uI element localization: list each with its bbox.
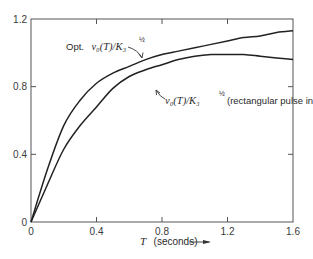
x-tick-label: 0 [28, 226, 34, 237]
curve-optimal [31, 31, 293, 222]
annotation-optimal: Opt. v₀(T)/K₃ ½ [66, 36, 145, 58]
x-tick-label: 1.6 [286, 226, 300, 237]
annotation-optimal-text: Opt. v₀(T)/K₃ [66, 36, 126, 53]
x-tick-label: 0.4 [90, 226, 104, 237]
annotation-rectangular-text: v₀(T)/K₃ [165, 95, 200, 107]
annotation-rectangular-suffix: (rectangular pulse input) [227, 95, 313, 106]
x-tick-label: 1.2 [221, 226, 235, 237]
x-axis-label: T (seconds) [140, 231, 211, 248]
y-tick-label: 0.4 [13, 149, 27, 160]
y-tick-label: 0 [21, 217, 27, 228]
chart: 00.40.81.21.600.40.81.2 Opt. v₀(T)/K₃ ½ … [0, 0, 313, 259]
annotation-rectangular: v₀(T)/K₃ ½ (rectangular pulse input) [156, 90, 313, 107]
curve-rectangular-pulse [31, 54, 293, 222]
curves [31, 31, 293, 222]
y-tick-label: 1.2 [13, 14, 27, 25]
annotation-rectangular-exponent: ½ [219, 90, 225, 97]
annotation-arrow [128, 47, 142, 58]
annotation-optimal-exponent: ½ [139, 36, 145, 43]
y-tick-label: 0.8 [13, 81, 27, 92]
arrow-head-icon [203, 240, 211, 244]
axis-tick-labels: 00.40.81.21.600.40.81.2 [13, 14, 300, 238]
